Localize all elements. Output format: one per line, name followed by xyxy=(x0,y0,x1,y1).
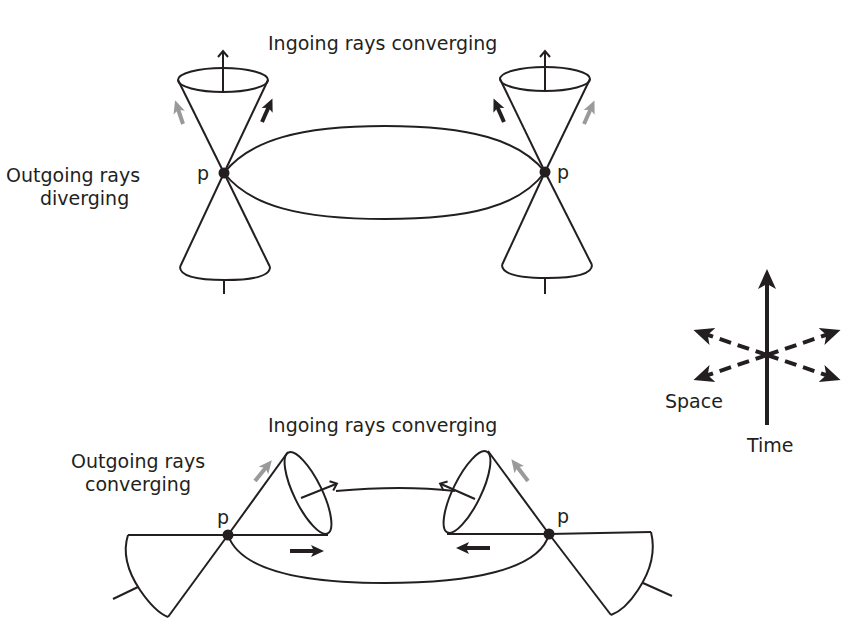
spacetime-axes-legend: Space Time xyxy=(665,278,832,456)
past-cone-base xyxy=(611,532,653,615)
cone-edge xyxy=(545,79,590,172)
top-left-point-label: p xyxy=(197,162,209,184)
cone-edge xyxy=(502,172,545,265)
space-axis-arrow-icon xyxy=(767,333,832,355)
bottom-side-label-line1: Outgoing rays xyxy=(71,450,205,472)
bottom-panel: Ingoing rays converging Outgoing rays co… xyxy=(71,414,672,617)
surface-upper-arc xyxy=(336,488,455,491)
cone-edge xyxy=(549,534,611,615)
surface-upper-arc xyxy=(224,126,545,173)
grey-arrow-icon xyxy=(255,465,268,481)
tick xyxy=(643,583,672,596)
cone-edge xyxy=(549,532,651,534)
top-side-label-line2: diverging xyxy=(40,187,129,209)
future-cone-cap xyxy=(435,445,500,538)
bottom-left-light-cone: p xyxy=(113,446,340,617)
cone-edge xyxy=(224,173,270,267)
cone-edge xyxy=(224,80,268,173)
bottom-side-label-line2: converging xyxy=(85,473,191,495)
grey-arrow-icon xyxy=(177,106,183,124)
top-side-label-line1: Outgoing rays xyxy=(6,164,140,186)
diagram-canvas: Ingoing rays converging Outgoing rays di… xyxy=(0,0,868,639)
top-left-light-cone: p xyxy=(177,52,270,294)
space-axis-arrow-icon xyxy=(702,333,767,355)
past-cone-base xyxy=(126,535,168,617)
future-cone-cap xyxy=(276,446,341,539)
surface-lower-arc xyxy=(228,534,549,583)
bottom-left-point-label: p xyxy=(217,506,229,528)
arrow-outward-icon xyxy=(441,484,475,499)
cone-edge xyxy=(500,79,545,172)
cone-edge xyxy=(488,451,549,534)
cone-edge xyxy=(178,80,224,173)
space-label: Space xyxy=(665,390,723,412)
space-axis-arrow-icon xyxy=(767,355,832,377)
surface-lower-arc xyxy=(224,172,545,219)
bottom-right-point-label: p xyxy=(557,505,569,527)
bottom-title: Ingoing rays converging xyxy=(268,414,497,436)
space-axis-arrow-icon xyxy=(702,355,767,377)
black-arrow-icon xyxy=(262,104,270,122)
top-panel: Ingoing rays converging Outgoing rays di… xyxy=(6,32,592,294)
cone-edge xyxy=(168,535,228,617)
top-right-point-label: p xyxy=(557,161,569,183)
tick xyxy=(113,587,138,599)
bottom-right-light-cone: p xyxy=(435,445,672,615)
arrow-outward-icon xyxy=(301,484,336,498)
grey-arrow-icon xyxy=(515,464,528,481)
cone-edge xyxy=(180,173,224,267)
cone-edge xyxy=(545,172,592,265)
top-title: Ingoing rays converging xyxy=(268,32,497,54)
black-arrow-icon xyxy=(496,104,504,122)
past-cone-base xyxy=(180,267,270,280)
grey-arrow-icon xyxy=(584,106,592,124)
cone-edge xyxy=(228,452,288,535)
past-cone-base xyxy=(502,265,592,278)
time-label: Time xyxy=(746,434,794,456)
